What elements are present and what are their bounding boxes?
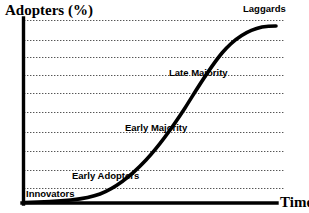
y-axis-title: Adopters (%)	[5, 2, 93, 19]
segment-label-early-majority: Early Majority	[125, 122, 188, 133]
diffusion-of-innovation-chart: Adopters (%) Time Laggards Late Majority…	[0, 0, 309, 213]
x-axis-title: Time	[280, 194, 309, 210]
adoption-curve-figure: Adopters (%) Time Laggards Late Majority…	[0, 0, 309, 213]
segment-label-innovators: Innovators	[26, 188, 75, 199]
segment-label-early-adopters: Early Adopters	[72, 170, 139, 181]
segment-label-late-majority: Late Majority	[169, 67, 228, 78]
chart-background	[0, 0, 309, 213]
segment-label-laggards: Laggards	[243, 3, 286, 14]
